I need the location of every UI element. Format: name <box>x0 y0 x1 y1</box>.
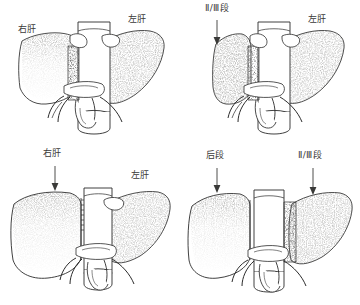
label-segment-2-3-bottom-right: Ⅱ/Ⅲ段 <box>298 150 322 161</box>
panel-bottom-left: 右肝 左肝 <box>0 152 180 305</box>
panel-top-left: 右肝 左肝 <box>0 0 180 152</box>
liver-drawing-top-right <box>180 0 360 152</box>
arrow-to-segment-2-3-bottom-right <box>310 168 317 195</box>
liver-drawing-bottom-left <box>0 152 180 305</box>
label-left-liver-bottom-left: 左肝 <box>131 170 150 181</box>
label-right-liver-bottom-left: 右肝 <box>43 148 62 159</box>
panel-bottom-right: 后段 Ⅱ/Ⅲ段 <box>180 152 360 305</box>
liver-right-lobe-bottom-left <box>11 192 81 278</box>
liver-anatomy-figure: 右肝 左肝 <box>0 0 360 305</box>
label-left-liver-top-right: 左肝 <box>308 14 327 25</box>
panel-top-right: Ⅱ/Ⅲ段 左肝 <box>180 0 360 152</box>
arrow-to-posterior-segment-bottom-right <box>214 168 221 193</box>
label-segment-2-3-top-right: Ⅱ/Ⅲ段 <box>205 3 229 14</box>
label-right-liver-top-left: 右肝 <box>18 24 37 35</box>
liver-segment-2-3-bottom-right <box>289 192 352 263</box>
label-left-liver-top-left: 左肝 <box>128 14 147 25</box>
arrow-to-right-liver-bottom-left <box>52 166 59 191</box>
label-posterior-segment-bottom-right: 后段 <box>206 150 225 161</box>
liver-drawing-bottom-right <box>180 152 360 305</box>
liver-drawing-top-left <box>0 0 180 152</box>
